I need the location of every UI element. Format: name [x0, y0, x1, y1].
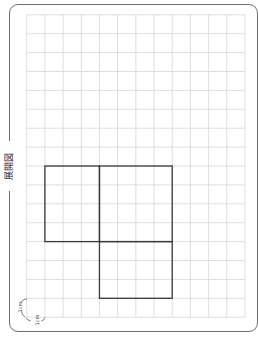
worksheet-page: 展開図 1cm 1cm [0, 0, 258, 338]
page-title: 展開図 [3, 141, 15, 191]
scale-label-horizontal: 1cm [34, 314, 40, 326]
net-diagram [45, 166, 172, 298]
grid-paper [0, 0, 258, 338]
scale-label-vertical: 1cm [17, 301, 23, 313]
